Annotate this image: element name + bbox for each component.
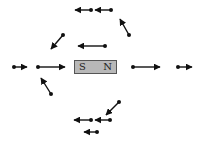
vector-origin-dot-icon <box>176 65 180 69</box>
vector-origin-dot-icon <box>12 65 16 69</box>
vector-origin-dot-icon <box>95 130 99 134</box>
field-vector-lower-left-diagonal <box>41 78 53 96</box>
vector-origin-dot-icon <box>89 8 93 12</box>
vector-origin-dot-icon <box>89 118 93 122</box>
field-vector-bottom-row-left <box>74 118 93 122</box>
vector-origin-dot-icon <box>103 44 107 48</box>
north-pole-label: N <box>103 61 112 73</box>
vector-origin-dot-icon <box>61 33 65 37</box>
vector-origin-dot-icon <box>109 8 113 12</box>
field-vector-upper-right-diagonal <box>120 19 131 37</box>
vector-origin-dot-icon <box>36 65 40 69</box>
arrow-icon <box>120 19 129 35</box>
field-vector-bottom-row-right <box>95 118 112 122</box>
arrow-icon <box>51 35 63 49</box>
field-vector-lower-right-diagonal <box>106 100 121 115</box>
field-vector-top-row-right <box>95 8 113 12</box>
vector-origin-dot-icon <box>108 118 112 122</box>
field-vector-left-outer <box>12 65 27 69</box>
field-vector-upper-middle <box>78 44 107 48</box>
field-vector-right-outer <box>176 65 192 69</box>
field-vector-bottom-small <box>84 130 99 134</box>
bar-magnet: S N <box>74 60 117 74</box>
arrow-icon <box>41 78 51 94</box>
vector-origin-dot-icon <box>131 65 135 69</box>
vector-origin-dot-icon <box>117 100 121 104</box>
arrow-icon <box>106 102 119 115</box>
field-vector-right-inner <box>131 65 160 69</box>
field-vector-left-inner <box>36 65 65 69</box>
field-vector-upper-left-diagonal <box>51 33 65 49</box>
field-vector-top-row-left <box>75 8 93 12</box>
vector-origin-dot-icon <box>49 92 53 96</box>
south-pole-label: S <box>79 61 86 73</box>
vector-origin-dot-icon <box>127 33 131 37</box>
